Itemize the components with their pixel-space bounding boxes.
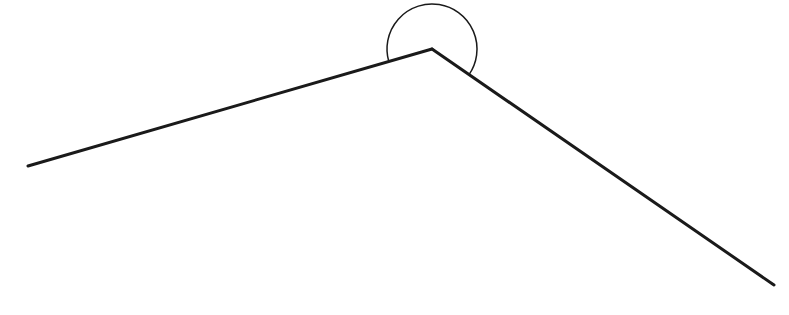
- right-ray-segment: [432, 49, 774, 285]
- reflex-angle-diagram: [0, 0, 789, 315]
- reflex-angle-arc: [387, 4, 477, 75]
- left-ray-segment: [28, 49, 432, 166]
